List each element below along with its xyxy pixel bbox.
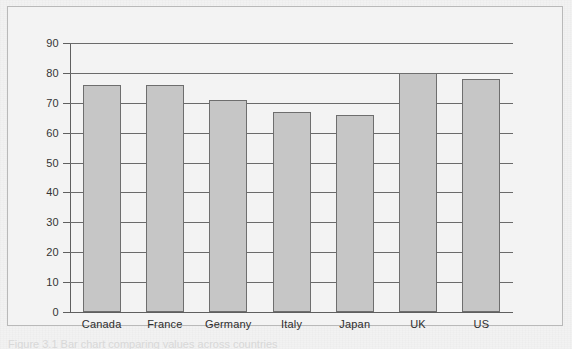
y-tick-0	[63, 312, 70, 313]
figure-caption: Figure 3.1 Bar chart comparing values ac…	[8, 338, 548, 349]
y-axis-label-10: 10	[46, 276, 59, 288]
bar-france	[146, 85, 184, 312]
bar-us	[462, 79, 500, 312]
bar-uk	[399, 73, 437, 312]
y-axis-label-80: 80	[46, 67, 59, 79]
y-axis-label-60: 60	[46, 127, 59, 139]
x-axis-label-france: France	[147, 318, 182, 330]
x-axis-label-japan: Japan	[339, 318, 370, 330]
bar-chart-plot-area: 0102030405060708090 CanadaFranceGermanyI…	[70, 43, 513, 312]
y-axis-label-40: 40	[46, 186, 59, 198]
y-tick-90	[63, 43, 70, 44]
y-tick-60	[63, 133, 70, 134]
y-tick-80	[63, 73, 70, 74]
y-axis-label-0: 0	[53, 306, 59, 318]
x-axis-label-canada: Canada	[82, 318, 122, 330]
bars-layer	[70, 43, 513, 313]
y-tick-40	[63, 192, 70, 193]
x-axis-label-italy: Italy	[281, 318, 302, 330]
y-tick-70	[63, 103, 70, 104]
x-axis-label-us: US	[474, 318, 490, 330]
y-axis-label-90: 90	[46, 37, 59, 49]
y-tick-20	[63, 252, 70, 253]
bar-japan	[336, 115, 374, 312]
y-tick-10	[63, 282, 70, 283]
y-axis-label-50: 50	[46, 157, 59, 169]
y-axis-label-30: 30	[46, 216, 59, 228]
bar-germany	[209, 100, 247, 312]
figure-panel: 0102030405060708090 CanadaFranceGermanyI…	[7, 6, 563, 326]
bar-canada	[83, 85, 121, 312]
y-tick-50	[63, 163, 70, 164]
y-tick-30	[63, 222, 70, 223]
y-axis-label-20: 20	[46, 246, 59, 258]
x-axis-label-uk: UK	[410, 318, 426, 330]
bar-italy	[273, 112, 311, 312]
y-axis-label-70: 70	[46, 97, 59, 109]
x-axis-label-germany: Germany	[205, 318, 252, 330]
